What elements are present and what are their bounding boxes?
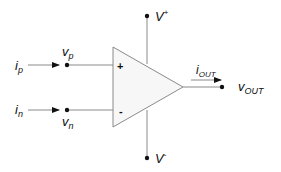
noninverting-voltage-label: vp	[62, 44, 74, 61]
inverting-current-sub: n	[18, 109, 23, 119]
noninverting-input-node	[65, 63, 69, 67]
positive-supply-node	[145, 14, 149, 18]
noninverting-voltage-sub: p	[68, 51, 74, 61]
op-amp-diagram: V+ V- + - ip vp in vn iOUT vOUT	[0, 0, 281, 172]
positive-supply-sup: +	[164, 8, 169, 17]
positive-supply-label: V+	[155, 8, 169, 24]
negative-supply-node	[145, 156, 149, 160]
noninverting-current-sub: p	[17, 65, 23, 75]
inverting-current-label: in	[15, 102, 23, 119]
output-node	[220, 85, 224, 89]
inverting-input-node	[65, 108, 69, 112]
negative-supply-label: V-	[155, 150, 167, 166]
inverting-symbol: -	[119, 105, 123, 117]
negative-supply-sup: -	[164, 150, 167, 159]
output-current-label: iOUT	[196, 63, 217, 79]
output-voltage-label: vOUT	[238, 79, 265, 96]
op-amp-body	[113, 47, 183, 127]
inverting-voltage-sub: n	[69, 121, 74, 131]
noninverting-current-label: ip	[15, 58, 23, 75]
inverting-voltage-label: vn	[62, 114, 74, 131]
output-voltage-sub: OUT	[245, 86, 266, 96]
output-current-sub: OUT	[199, 70, 217, 79]
noninverting-symbol: +	[117, 60, 123, 72]
